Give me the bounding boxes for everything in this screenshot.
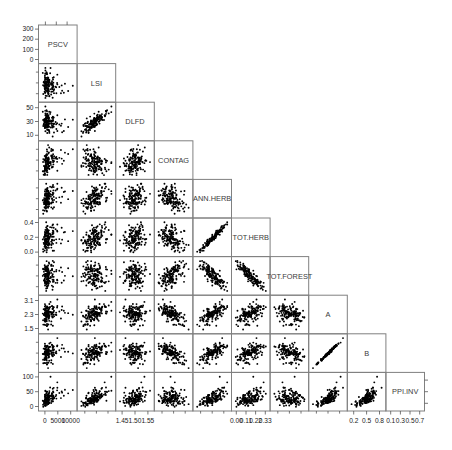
data-point xyxy=(80,405,82,407)
data-point xyxy=(161,346,163,348)
data-point xyxy=(87,241,89,243)
data-point xyxy=(80,202,82,204)
data-point xyxy=(85,156,87,158)
data-point xyxy=(139,163,141,165)
data-point xyxy=(181,363,183,365)
scatter-panel-dlfd-vs-ppi.inv xyxy=(116,372,155,411)
data-point xyxy=(131,277,133,279)
data-point xyxy=(158,345,160,347)
data-point xyxy=(276,312,278,314)
data-point xyxy=(342,387,344,389)
data-point xyxy=(282,363,284,365)
data-point xyxy=(322,402,324,404)
data-point xyxy=(89,271,91,273)
data-point xyxy=(47,162,49,164)
data-point xyxy=(141,395,143,397)
data-point xyxy=(260,285,262,287)
data-point xyxy=(88,318,90,320)
point-cloud xyxy=(235,260,267,292)
data-point xyxy=(89,236,91,238)
data-point xyxy=(209,402,211,404)
data-point xyxy=(170,270,172,272)
data-point xyxy=(287,308,289,310)
data-point xyxy=(103,119,105,121)
data-point xyxy=(206,309,208,311)
data-point xyxy=(85,125,87,127)
data-point xyxy=(215,355,217,357)
data-point xyxy=(167,280,169,282)
data-point xyxy=(47,93,49,95)
data-point xyxy=(50,206,52,208)
data-point xyxy=(254,352,256,354)
data-point xyxy=(179,353,181,355)
data-point xyxy=(219,314,221,316)
point-cloud xyxy=(80,221,112,253)
data-point xyxy=(158,190,160,192)
data-point xyxy=(51,305,53,307)
data-point xyxy=(342,337,344,339)
data-point xyxy=(199,317,201,319)
data-point xyxy=(321,359,323,361)
data-point xyxy=(253,388,255,390)
data-point xyxy=(44,280,46,282)
data-point xyxy=(141,312,143,314)
data-point xyxy=(105,275,107,277)
data-point xyxy=(294,314,296,316)
data-point xyxy=(93,209,95,211)
data-point xyxy=(205,396,207,398)
data-point xyxy=(140,355,142,357)
data-point xyxy=(132,189,134,191)
data-point xyxy=(279,404,281,406)
data-point xyxy=(221,337,223,339)
data-point xyxy=(126,316,128,318)
data-point xyxy=(90,251,92,253)
data-point xyxy=(123,206,125,208)
scatter-panel-lsi-vs-contag xyxy=(77,141,116,180)
data-point xyxy=(132,271,134,273)
data-point xyxy=(93,394,95,396)
data-point xyxy=(100,118,102,120)
data-point xyxy=(169,393,171,395)
data-point xyxy=(84,213,86,215)
data-point xyxy=(56,279,58,281)
point-cloud xyxy=(312,337,344,369)
data-point xyxy=(256,275,258,277)
data-point xyxy=(257,308,259,310)
data-point xyxy=(175,194,177,196)
data-point xyxy=(158,400,160,402)
data-point xyxy=(56,183,58,185)
data-point xyxy=(204,397,206,399)
data-point xyxy=(88,403,90,405)
point-cloud xyxy=(196,299,228,331)
data-point xyxy=(93,113,95,115)
data-point xyxy=(53,387,55,389)
data-point xyxy=(226,290,228,292)
data-point xyxy=(138,278,140,280)
data-point xyxy=(133,404,135,406)
data-point xyxy=(179,314,181,316)
data-point xyxy=(212,269,214,271)
data-point xyxy=(185,244,187,246)
data-point xyxy=(166,186,168,188)
data-point xyxy=(177,207,179,209)
data-point xyxy=(303,398,305,400)
data-point xyxy=(101,285,103,287)
data-point xyxy=(299,359,301,361)
data-point xyxy=(125,165,127,167)
data-point xyxy=(302,310,304,312)
data-point xyxy=(64,83,66,85)
x-tick-label-pscv: 0 xyxy=(43,417,47,424)
data-point xyxy=(256,352,258,354)
data-point xyxy=(288,316,290,318)
data-point xyxy=(48,352,50,354)
data-point xyxy=(136,165,138,167)
data-point xyxy=(255,346,257,348)
data-point xyxy=(256,389,258,391)
data-point xyxy=(135,232,137,234)
data-point xyxy=(249,324,251,326)
data-point xyxy=(81,136,83,138)
data-point xyxy=(215,393,217,395)
data-point xyxy=(143,342,145,344)
data-point xyxy=(96,270,98,272)
data-point xyxy=(140,290,142,292)
